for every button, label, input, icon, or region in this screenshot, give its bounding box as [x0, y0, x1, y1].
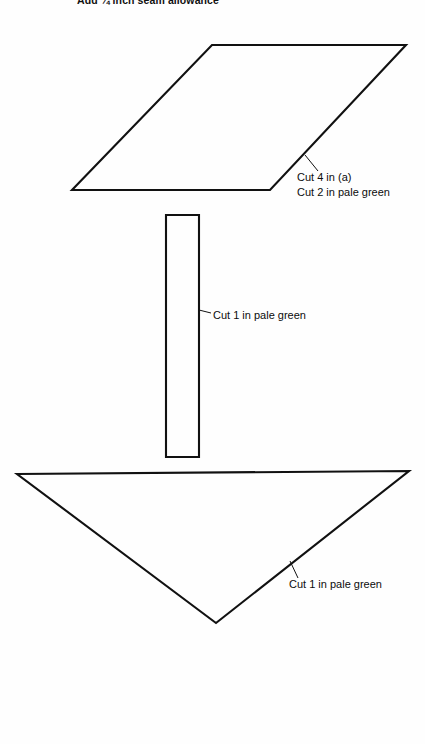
callout-rectangle: Cut 1 in pale green [213, 308, 306, 323]
parallelogram-piece [72, 45, 406, 190]
callout-parallelogram: Cut 4 in (a) Cut 2 in pale green [297, 170, 390, 199]
callout-triangle: Cut 1 in pale green [289, 577, 382, 592]
triangle-piece [17, 471, 409, 623]
callout-triangle-line-1: Cut 1 in pale green [289, 577, 382, 592]
callout-parallelogram-line-1: Cut 4 in (a) [297, 170, 390, 185]
callout-rectangle-line-1: Cut 1 in pale green [213, 308, 306, 323]
leader-line-rectangle [199, 310, 211, 313]
callout-parallelogram-line-2: Cut 2 in pale green [297, 185, 390, 200]
pattern-drawing [0, 0, 425, 744]
rectangle-piece [166, 215, 199, 457]
leader-line-triangle [290, 561, 298, 578]
leader-line-parallelogram [305, 155, 318, 171]
pattern-sheet: Add ¼ inch seam allowance Cut 4 in (a) C… [0, 0, 425, 744]
